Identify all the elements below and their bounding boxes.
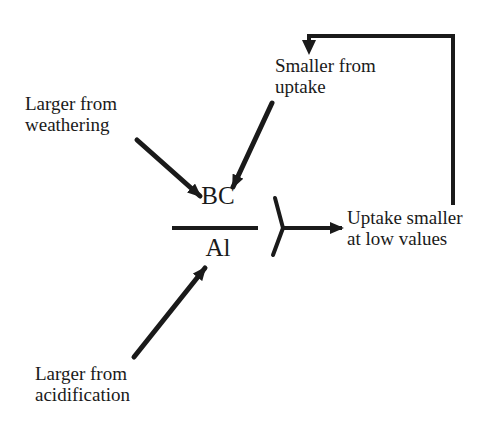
- feedback-arrowhead-icon: [302, 40, 316, 55]
- uptake-arrow: [233, 103, 272, 187]
- bc-al-ratio-diagram: BC Al Larger from weathering Smaller fro…: [0, 0, 499, 422]
- uptake-label: Smaller from uptake: [275, 55, 376, 97]
- acidification-arrow: [134, 268, 205, 357]
- uptake-label-line2: uptake: [275, 76, 376, 97]
- outcome-label: Uptake smaller at low values: [347, 207, 463, 249]
- ratio-denominator: Al: [178, 234, 258, 262]
- acidification-label: Larger from acidification: [35, 363, 130, 405]
- outcome-label-line2: at low values: [347, 228, 463, 249]
- outcome-label-line1: Uptake smaller: [347, 207, 463, 228]
- acidification-label-line2: acidification: [35, 384, 130, 405]
- threshold-connector: [273, 198, 342, 255]
- weathering-label: Larger from weathering: [25, 93, 117, 135]
- weathering-label-line1: Larger from: [25, 93, 117, 114]
- uptake-label-line1: Smaller from: [275, 55, 376, 76]
- acidification-label-line1: Larger from: [35, 363, 130, 384]
- weathering-label-line2: weathering: [25, 114, 117, 135]
- ratio-numerator: BC: [178, 182, 258, 210]
